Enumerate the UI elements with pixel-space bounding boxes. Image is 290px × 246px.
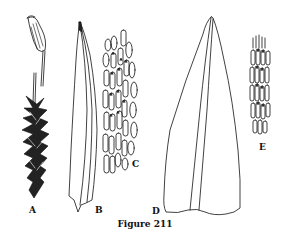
panel-label-d: D	[152, 207, 160, 216]
panel-e-cells-drawing	[250, 35, 270, 134]
figure-caption: Figure 211	[0, 219, 290, 229]
figure-illustration	[0, 0, 290, 246]
panel-a-plant-drawing	[22, 16, 49, 198]
panel-c-cells-drawing	[103, 30, 137, 173]
panel-label-b: B	[95, 206, 103, 215]
botanical-figure: A B C D E Figure 211	[0, 0, 290, 246]
panel-label-a: A	[29, 206, 36, 215]
panel-b-leaf-drawing	[69, 22, 97, 212]
panel-d-leaf-drawing	[164, 17, 241, 215]
panel-label-e: E	[259, 143, 266, 152]
panel-label-c: C	[132, 160, 139, 169]
